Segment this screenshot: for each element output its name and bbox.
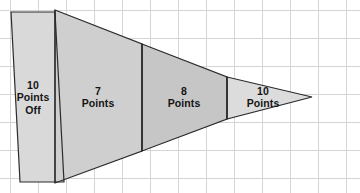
label-line: Points xyxy=(223,97,303,109)
label-segment-7-points: 7Points xyxy=(58,85,138,110)
label-line: Points xyxy=(58,97,138,109)
label-line: Points xyxy=(144,97,224,109)
label-line: 7 xyxy=(58,85,138,97)
label-line: 8 xyxy=(144,85,224,97)
label-segment-10-points: 10Points xyxy=(223,85,303,110)
label-segment-8-points: 8Points xyxy=(144,85,224,110)
diagram-canvas: 10PointsOff7Points8Points10Points xyxy=(0,0,360,193)
label-line: 10 xyxy=(223,85,303,97)
